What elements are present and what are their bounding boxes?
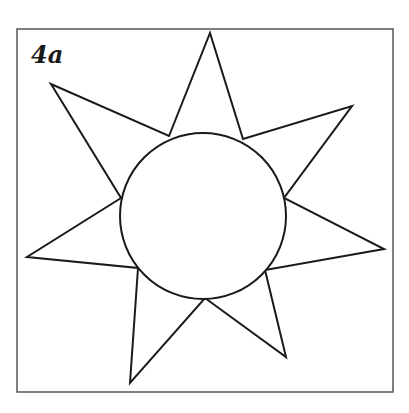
figure-label: 4a <box>31 40 63 69</box>
center-circle <box>120 133 286 299</box>
